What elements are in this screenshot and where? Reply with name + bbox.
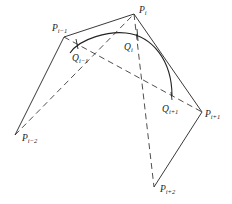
spline-curve xyxy=(70,33,172,96)
label-q-i: Qi xyxy=(124,42,133,53)
dashed-chords xyxy=(15,14,202,187)
edge-p-i-1-to-p-i xyxy=(64,14,134,37)
edge-p-i+1-to-p-i+2 xyxy=(154,112,202,187)
chord-p-i-to-p-i+2 xyxy=(134,14,154,187)
label-p-i-2: Pi−2 xyxy=(21,133,38,144)
label-q-i-1: Qi−1 xyxy=(72,53,88,64)
edge-p-i-to-p-i+1 xyxy=(134,14,202,112)
label-p-i: Pi xyxy=(138,5,147,16)
labels: Pi−2 Pi−1 Pi Pi+1 Pi+2 Qi−1 Qi Qi+1 xyxy=(21,5,220,195)
label-p-i+1: Pi+1 xyxy=(204,109,220,120)
edge-p-i-2-to-p-i-1 xyxy=(15,37,64,135)
q-point-ticks xyxy=(76,29,172,100)
label-p-i-1: Pi−1 xyxy=(51,23,67,34)
label-q-i+1: Qi+1 xyxy=(162,104,178,115)
spline-diagram: Pi−2 Pi−1 Pi Pi+1 Pi+2 Qi−1 Qi Qi+1 xyxy=(0,0,232,204)
label-p-i+2: Pi+2 xyxy=(159,184,176,195)
chord-p-i-1-to-p-i+1 xyxy=(64,37,202,112)
